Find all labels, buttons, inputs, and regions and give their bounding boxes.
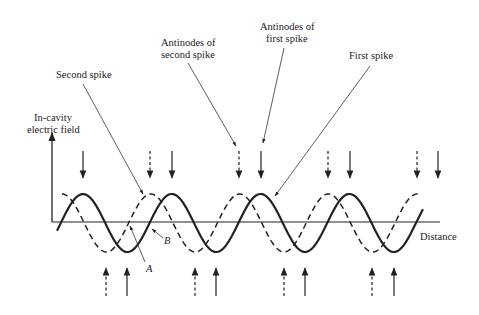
point-b-label: B — [164, 235, 171, 246]
y-axis-label-line2: electric field — [27, 124, 81, 135]
antinodes-second-label-line2: second spike — [161, 49, 215, 60]
first-spike-wave — [57, 194, 423, 252]
point-b-leader — [152, 229, 163, 238]
y-axis-label-line1: In-cavity — [34, 112, 73, 123]
first-spike-leader — [275, 66, 370, 196]
antinode-arrows-top — [83, 151, 438, 178]
first-spike-label: First spike — [349, 50, 393, 61]
point-a-label: A — [145, 263, 153, 274]
diagram-canvas: In-cavity electric field Distance Second… — [0, 0, 479, 315]
standing-wave-diagram: In-cavity electric field Distance Second… — [0, 0, 479, 315]
antinodes-first-leader — [263, 48, 284, 143]
point-a-leader — [130, 226, 145, 262]
x-axis-label: Distance — [420, 231, 457, 242]
antinodes-second-leader — [188, 63, 236, 146]
antinodes-second-label-line1: Antinodes of — [161, 37, 216, 48]
second-spike-leader — [83, 84, 143, 194]
antinodes-first-label-line2: first spike — [266, 33, 308, 44]
second-spike-label: Second spike — [56, 69, 112, 80]
antinodes-first-label-line1: Antinodes of — [260, 21, 315, 32]
